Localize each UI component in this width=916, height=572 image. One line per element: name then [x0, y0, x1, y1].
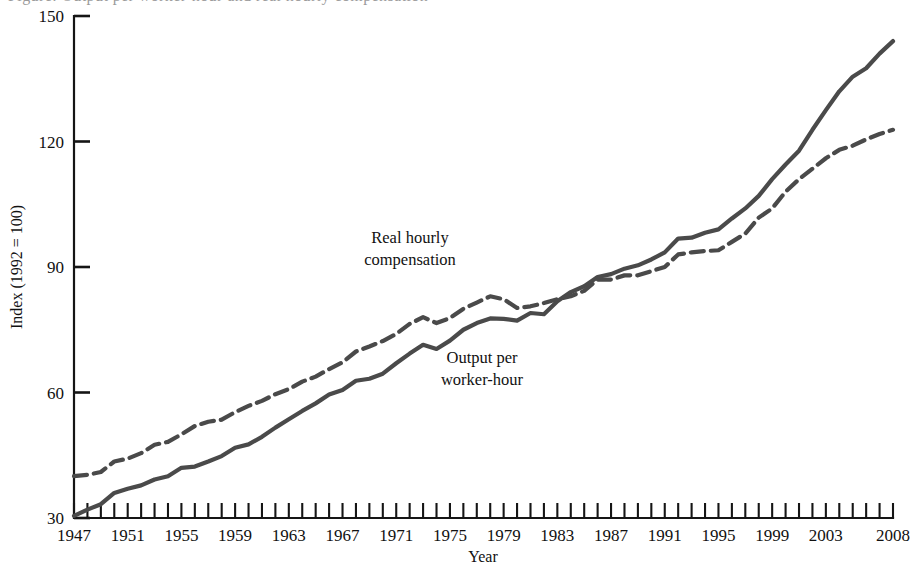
y-axis-ticks	[74, 16, 90, 518]
series-annotations: Real hourlycompensationOutput perworker-…	[364, 228, 523, 389]
y-tick-label-150: 150	[39, 7, 65, 26]
annotation-line-2: worker-hour	[441, 370, 524, 389]
x-tick-label-1995: 1995	[701, 526, 735, 545]
annotation-line-1: Real hourly	[371, 228, 449, 247]
x-axis-ticks	[74, 503, 893, 518]
data-series-group	[74, 41, 893, 516]
x-tick-label-1967: 1967	[326, 526, 361, 545]
x-tick-label-1963: 1963	[272, 526, 306, 545]
y-axis-title: Index (1992 = 100)	[8, 205, 26, 329]
x-tick-label-2008: 2008	[876, 526, 910, 545]
y-tick-label-90: 90	[47, 258, 64, 277]
axis-lines	[74, 16, 893, 518]
y-tick-label-120: 120	[39, 133, 65, 152]
x-tick-label-1999: 1999	[755, 526, 789, 545]
x-tick-label-1955: 1955	[164, 526, 198, 545]
annotation-output-per-worker-hour: Output perworker-hour	[441, 348, 524, 389]
x-tick-label-1951: 1951	[111, 526, 145, 545]
x-tick-label-1987: 1987	[594, 526, 629, 545]
axes	[74, 16, 893, 518]
x-tick-label-1983: 1983	[540, 526, 574, 545]
x-tick-label-1979: 1979	[487, 526, 521, 545]
line-chart: 306090120150 194719511955195919631967197…	[0, 0, 916, 572]
y-tick-label-60: 60	[47, 384, 64, 403]
x-axis-tick-labels: 1947195119551959196319671971197519791983…	[57, 526, 910, 545]
figure-container: Figure: Output per worker-hour and real …	[0, 0, 916, 572]
annotation-line-2: compensation	[364, 250, 456, 269]
y-axis-tick-labels: 306090120150	[39, 7, 65, 528]
x-tick-label-1971: 1971	[379, 526, 413, 545]
annotation-line-1: Output per	[446, 348, 518, 367]
x-tick-label-1991: 1991	[648, 526, 682, 545]
annotation-real-hourly-compensation: Real hourlycompensation	[364, 228, 456, 269]
x-tick-label-1959: 1959	[218, 526, 252, 545]
x-tick-label-1975: 1975	[433, 526, 467, 545]
x-tick-label-1947: 1947	[57, 526, 92, 545]
x-tick-label-2003: 2003	[809, 526, 843, 545]
x-axis-title: Year	[468, 548, 498, 565]
series-output-per-worker-hour	[74, 41, 893, 516]
